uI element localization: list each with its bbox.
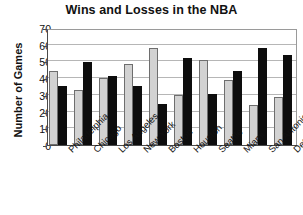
bar-chart: Wins and Losses in the NBA Number of Gam… (0, 0, 303, 215)
x-tick-label: Boston (166, 147, 174, 155)
x-tick-label: New York (141, 147, 149, 155)
bar-losses (58, 86, 67, 145)
x-tick-label: San Antonio (266, 147, 274, 155)
x-tick-label: Houston (191, 147, 199, 155)
chart-title: Wins and Losses in the NBA (0, 3, 303, 18)
x-tick-label: Seattle (216, 147, 224, 155)
bar-wins (49, 71, 58, 145)
x-axis-tick-labels: PhiladelphiaChicagoLos AngelesNew YorkBo… (47, 147, 297, 215)
bar-group (248, 30, 273, 145)
x-tick-label: Philadelphia (66, 147, 74, 155)
x-tick-label: Miami (241, 147, 249, 155)
x-tick-label: Los Angeles (116, 147, 124, 155)
bar-group (48, 30, 73, 145)
x-tick-label: Chicago (91, 147, 99, 155)
x-tick-label: Detroit (291, 147, 299, 155)
